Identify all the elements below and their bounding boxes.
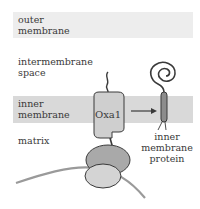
matrix-label: matrix	[18, 135, 49, 146]
intermembrane-space-label: intermembrane space	[18, 56, 93, 78]
imp-coil	[151, 62, 175, 92]
oxa1-n-tail	[106, 72, 108, 93]
oxa1-label: Oxa1	[95, 109, 121, 120]
inner-membrane-protein-label: inner membrane protein	[136, 131, 198, 164]
inner-membrane-label: inner membrane	[18, 98, 70, 120]
inner-membrane-protein-helix	[161, 92, 167, 122]
mrna-strand	[16, 167, 145, 198]
imp-c-tail	[158, 122, 166, 130]
insertion-arrow-head	[151, 108, 157, 114]
ribosome-small-subunit	[85, 164, 121, 188]
outer-membrane-label: outer membrane	[18, 14, 70, 36]
